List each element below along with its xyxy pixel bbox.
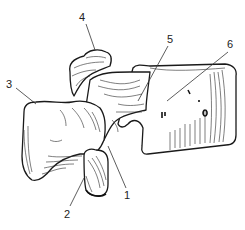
label-2: 2 xyxy=(64,208,70,220)
label-5: 5 xyxy=(167,33,173,45)
leader-1 xyxy=(108,146,126,188)
leader-2 xyxy=(70,178,84,206)
vertebra-diagram: 1 2 3 4 5 6 xyxy=(0,0,245,230)
vertebra-illustration xyxy=(22,50,236,196)
leader-4 xyxy=(86,24,95,50)
label-3: 3 xyxy=(6,78,12,90)
label-6: 6 xyxy=(227,38,233,50)
label-1: 1 xyxy=(124,189,130,201)
label-4: 4 xyxy=(79,11,85,23)
leader-3 xyxy=(16,88,36,104)
